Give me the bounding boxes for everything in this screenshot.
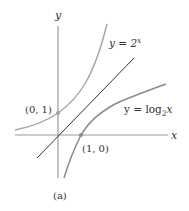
logarithm-label: y = log2x <box>123 103 173 118</box>
point-1-0-label: (1, 0) <box>82 143 109 154</box>
point-0-1-marker <box>56 111 60 115</box>
point-0-1-label: (0, 1) <box>25 104 52 115</box>
figure-caption: (a) <box>53 190 67 201</box>
logarithm-curve <box>64 84 166 178</box>
x-axis-label: x <box>171 129 178 142</box>
exponential-log-diagram: y x y = 2x y = log2x (0, 1) (1, 0) (a) <box>0 0 189 211</box>
point-1-0-marker <box>79 133 83 137</box>
y-axis-label: y <box>54 9 62 22</box>
exponential-label: y = 2x <box>108 36 142 49</box>
